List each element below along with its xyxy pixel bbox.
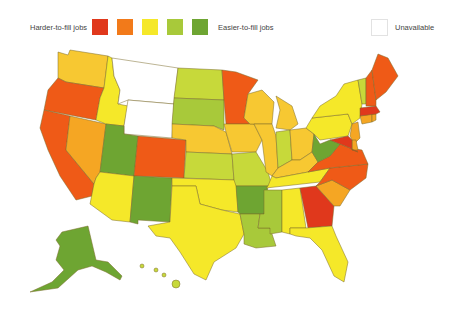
state-WY[interactable] <box>124 100 174 138</box>
state-CO[interactable] <box>134 136 186 178</box>
state-AR[interactable] <box>236 186 268 214</box>
state-FL[interactable] <box>290 226 348 282</box>
state-DE[interactable] <box>352 140 358 150</box>
state-HI[interactable] <box>140 264 180 288</box>
state-ME[interactable] <box>372 54 398 100</box>
state-NM[interactable] <box>130 176 172 224</box>
state-KS[interactable] <box>184 152 234 180</box>
state-RI[interactable] <box>372 114 376 122</box>
state-AZ[interactable] <box>90 172 134 222</box>
state-MA[interactable] <box>360 106 380 116</box>
state-WI[interactable] <box>244 90 274 124</box>
state-ND[interactable] <box>174 68 224 100</box>
state-MT[interactable] <box>112 58 178 104</box>
us-map <box>0 0 460 310</box>
state-MI[interactable] <box>276 96 298 130</box>
state-AK[interactable] <box>30 226 122 292</box>
